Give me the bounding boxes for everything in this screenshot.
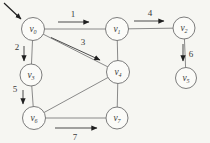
node-v4: v4 xyxy=(107,61,130,84)
node-v2: v2 xyxy=(173,17,195,39)
node-v7: v7 xyxy=(106,107,128,129)
visit-arrow-1: 1 xyxy=(58,9,89,22)
edge-v4-v6 xyxy=(34,72,118,118)
visit-arrow-3: 3 xyxy=(51,37,100,60)
visit-arrow-7: 7 xyxy=(55,128,97,142)
visit-order-label-3: 3 xyxy=(81,37,86,47)
node-v6: v6 xyxy=(23,107,46,130)
visit-arrow-line-v0-v4 xyxy=(51,38,100,61)
visit-order-label-7: 7 xyxy=(73,132,78,142)
graph-figure: 1234567v0v1v2v3v4v5v6v7 xyxy=(0,0,210,143)
graph-canvas: 1234567v0v1v2v3v4v5v6v7 xyxy=(0,0,210,143)
visit-order-label-4: 4 xyxy=(148,8,153,18)
visit-order-label-2: 2 xyxy=(15,42,20,52)
node-v3: v3 xyxy=(20,64,42,86)
visit-order-label-6: 6 xyxy=(189,49,194,59)
start-arrow xyxy=(4,3,21,19)
node-v1: v1 xyxy=(106,18,129,41)
node-v5: v5 xyxy=(176,68,197,89)
edge-v0-v4 xyxy=(33,29,118,72)
visit-arrow-4: 4 xyxy=(134,8,164,21)
visit-order-label-1: 1 xyxy=(71,9,76,19)
visit-order-label-5: 5 xyxy=(13,84,18,94)
node-v0: v0 xyxy=(22,18,45,41)
visit-arrow-2: 2 xyxy=(15,42,24,61)
visit-arrow-5: 5 xyxy=(13,84,23,104)
